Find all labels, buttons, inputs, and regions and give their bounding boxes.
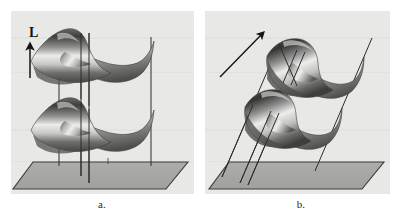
ground-plane-b xyxy=(209,162,384,189)
figure-container: L xyxy=(0,0,401,223)
vector-label-a: L xyxy=(29,25,38,41)
panel-a: L xyxy=(11,11,194,194)
caption-b: b. xyxy=(291,198,311,210)
panel-a-graphic xyxy=(11,11,194,194)
ground-plane-a xyxy=(13,162,188,189)
caption-a: a. xyxy=(92,198,112,210)
panel-b-graphic xyxy=(205,11,390,194)
panel-b: L xyxy=(205,11,390,194)
